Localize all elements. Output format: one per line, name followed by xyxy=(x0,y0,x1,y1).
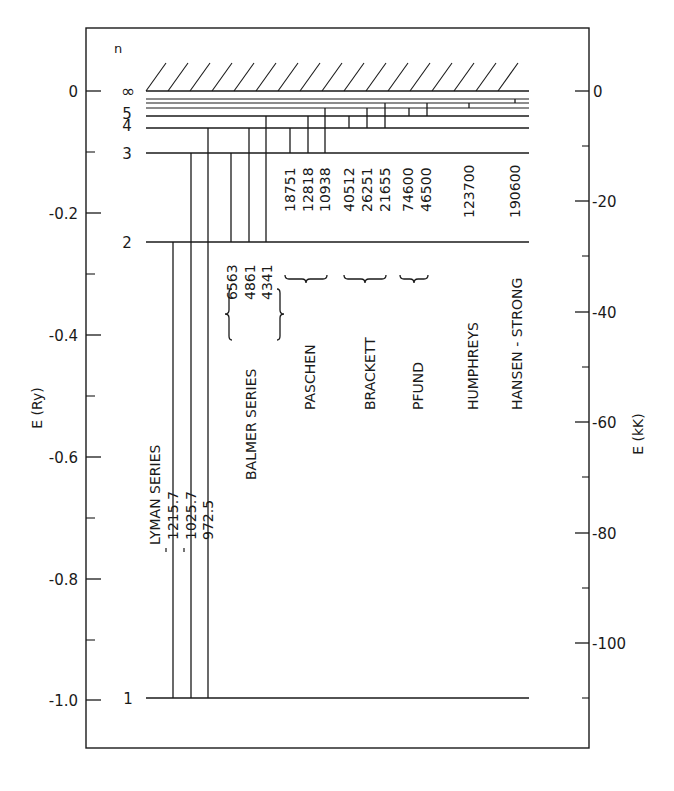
paschen-series-label: PASCHEN xyxy=(302,344,318,410)
pfund-series-label: PFUND xyxy=(410,362,426,410)
brackett-wavelength-2: 26251 xyxy=(359,167,375,212)
right-axis-tick-labels: 0 -20 -40 -60 -80 -100 xyxy=(592,83,626,653)
left-tick-4: -0.8 xyxy=(49,571,78,589)
left-axis-ticks xyxy=(86,91,101,700)
hansen-strong-wavelength: 190600 xyxy=(507,165,523,218)
left-axis-label: E (Ry) xyxy=(29,387,45,428)
right-axis-ticks xyxy=(575,91,589,698)
paschen-wavelength-2: 12818 xyxy=(300,167,316,212)
left-tick-2: -0.4 xyxy=(49,327,78,345)
right-axis-label: E (kK) xyxy=(630,413,646,455)
level-label-4: 4 xyxy=(122,117,132,135)
n-header: n xyxy=(114,41,122,56)
balmer-brace-right xyxy=(277,289,284,340)
right-tick-3: -60 xyxy=(592,414,617,432)
humphreys-wavelength: 123700 xyxy=(461,165,477,218)
brackett-wavelength-1: 40512 xyxy=(341,167,357,212)
left-tick-5: -1.0 xyxy=(49,692,78,710)
left-axis-tick-labels: 0 -0.2 -0.4 -0.6 -0.8 -1.0 xyxy=(49,83,78,710)
hansen-strong-series-label: HANSEN - STRONG xyxy=(509,278,525,410)
lyman-wavelength-2: 1025.7 xyxy=(183,491,199,540)
paschen-brace xyxy=(285,275,327,283)
balmer-wavelength-3: 4341 xyxy=(259,264,275,300)
balmer-wavelength-1: 6563 xyxy=(224,264,240,300)
lyman-wavelength-1: 1215.7 xyxy=(165,491,181,540)
balmer-series-label: BALMER SERIES xyxy=(243,368,259,480)
right-tick-0: 0 xyxy=(593,83,603,101)
left-tick-3: -0.6 xyxy=(49,449,78,467)
pfund-wavelength-2: 46500 xyxy=(418,167,434,212)
left-tick-0: 0 xyxy=(68,83,78,101)
right-tick-5: -100 xyxy=(592,635,626,653)
brackett-wavelength-3: 21655 xyxy=(377,167,393,212)
right-tick-2: -40 xyxy=(592,304,617,322)
balmer-wavelength-2: 4861 xyxy=(242,264,258,300)
level-label-inf: ∞ xyxy=(121,81,135,101)
right-tick-4: -80 xyxy=(592,525,617,543)
level-label-1: 1 xyxy=(123,690,133,708)
pfund-wavelength-1: 74600 xyxy=(400,167,416,212)
level-label-3: 3 xyxy=(122,145,132,163)
energy-level-diagram: 0 -0.2 -0.4 -0.6 -0.8 -1.0 E (Ry) 0 -20 … xyxy=(0,0,674,791)
paschen-wavelength-3: 10938 xyxy=(317,167,333,212)
level-label-2: 2 xyxy=(122,234,132,252)
lyman-series-label: LYMAN SERIES xyxy=(147,444,163,545)
lyman-wavelength-3: 972.5 xyxy=(200,500,216,540)
humphreys-series-label: HUMPHREYS xyxy=(465,322,481,410)
continuum-hatch xyxy=(146,63,518,91)
right-tick-1: -20 xyxy=(592,193,617,211)
paschen-wavelength-1: 18751 xyxy=(282,167,298,212)
left-tick-1: -0.2 xyxy=(49,205,78,223)
pfund-brace xyxy=(400,275,428,283)
brackett-brace xyxy=(344,275,386,283)
lyman-leader-ticks xyxy=(166,548,184,552)
brackett-series-label: BRACKETT xyxy=(362,337,378,410)
